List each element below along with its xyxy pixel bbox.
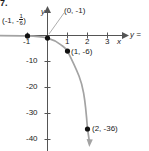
point-label-two: (2, -36) [92,125,118,133]
point-label-neg1: (-1, -16) [2,13,26,27]
y-axis-label: y [41,8,45,16]
x-tick-label-2: 2 [85,38,89,46]
item-number: 7. [0,0,8,8]
y-tick-label-neg40: -40 [26,135,38,143]
graph-figure: 7. (-1, -16) (0, -1) (1, -6) (2, -36) -1… [0,0,149,151]
x-tick-label-neg1: -1 [23,38,30,46]
y-tick-label-neg30: -30 [26,109,38,117]
y-axis [44,6,51,151]
y-tick-label-neg20: -20 [26,83,38,91]
leader-line [49,13,64,34]
x-tick-label-1: 1 [65,38,69,46]
x-tick-label-3: 3 [105,38,109,46]
point-label-zero: (0, -1) [64,7,85,15]
point-label-neg1-suffix: ) [23,16,26,25]
data-point-two [85,126,90,131]
data-point-one [65,49,70,54]
equation-label: y = [130,31,141,39]
data-point-zero [45,36,50,41]
x-axis-label: x [117,38,121,46]
y-tick-label-neg10: -10 [26,57,38,65]
point-label-one: (1, -6) [71,48,92,56]
point-label-neg1-text: (-1, - [2,16,19,25]
